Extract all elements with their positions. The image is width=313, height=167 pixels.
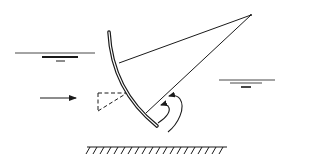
- trunnion-pivot: [250, 14, 252, 16]
- radial-gate-skin: [109, 32, 157, 126]
- channel-bed-hatched-ground: [86, 147, 227, 154]
- downstream-water-level-icon: [219, 80, 275, 87]
- dashed-force-triangle: [98, 93, 127, 111]
- radial-gate-diagram: [0, 0, 313, 167]
- upstream-water-level-icon: [15, 53, 95, 61]
- gate-arms: [119, 15, 251, 113]
- diagram-svg: [0, 0, 313, 167]
- vortex-flow-arrows-icon: [158, 95, 182, 132]
